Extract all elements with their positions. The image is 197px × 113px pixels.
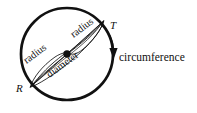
point-label-t: T [110, 19, 117, 31]
radius-left-label: radius [21, 42, 48, 66]
circumference-label: circumference [119, 51, 185, 63]
circumference-arrowhead [109, 48, 117, 60]
point-label-r: R [15, 82, 23, 94]
diagram-canvas: R T radius radius diameter circumference [0, 0, 197, 113]
circle-parts-diagram: R T radius radius diameter circumference [0, 0, 197, 113]
